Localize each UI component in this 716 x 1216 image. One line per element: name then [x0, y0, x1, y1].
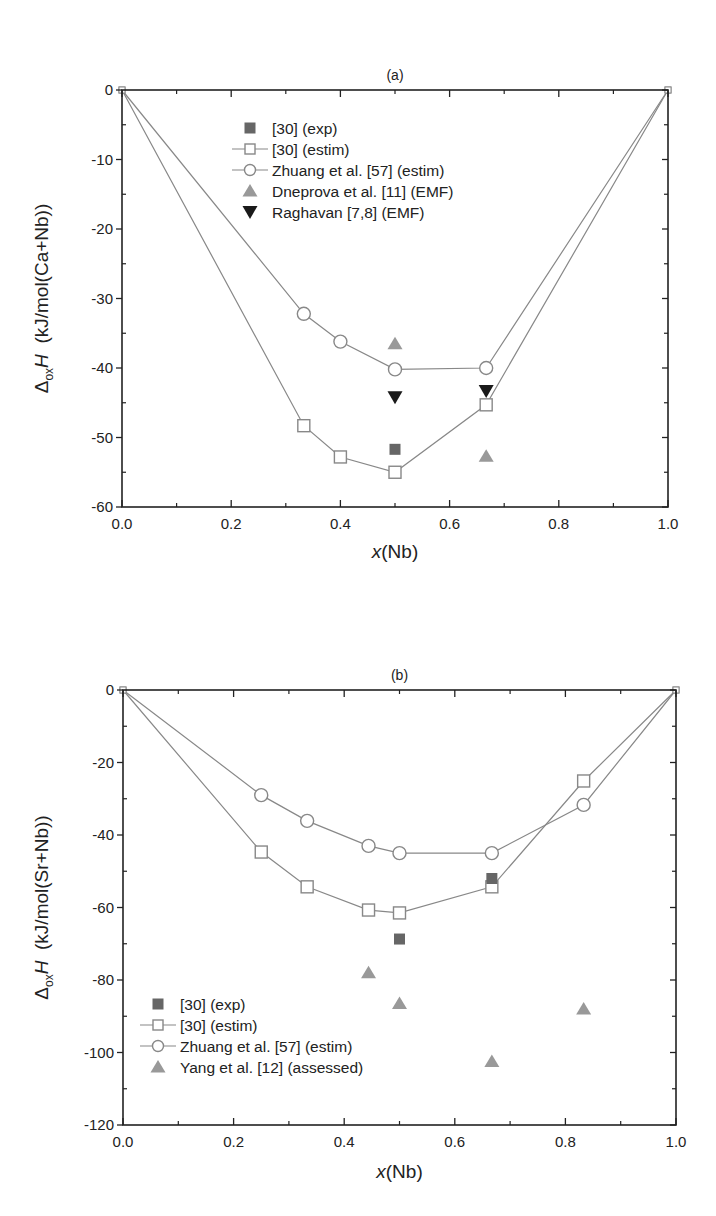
data-point: [394, 907, 406, 919]
series-line: [123, 690, 676, 913]
legend-label: Dneprova et al. [11] (EMF): [272, 183, 453, 200]
legend-label: Zhuang et al. [57] (estim): [180, 1038, 352, 1055]
legend-label: [30] (estim): [272, 141, 350, 158]
data-point: [298, 420, 310, 432]
y-tick-label: -40: [91, 359, 113, 376]
data-point: [301, 881, 313, 893]
x-tick-label: 0.8: [555, 1133, 576, 1150]
x-tick-label: 0.8: [548, 515, 569, 532]
x-tick-label: 0.2: [221, 515, 242, 532]
y-tick-label: -60: [91, 498, 113, 515]
y-tick-label: -80: [92, 971, 114, 988]
y-tick-label: 0: [105, 81, 113, 98]
legend-label: [30] (exp): [180, 996, 245, 1013]
legend-label: [30] (exp): [272, 120, 337, 137]
legend-label: Raghavan [7,8] (EMF): [272, 204, 424, 221]
data-point: [480, 362, 493, 375]
y-axis-title: ΔoxH (kJ/mol(Sr+Nb)): [31, 815, 56, 999]
panel-title: (b): [391, 667, 408, 683]
data-point: [334, 335, 347, 348]
legend-marker-icon: [243, 184, 258, 197]
legend-label: Zhuang et al. [57] (estim): [272, 162, 444, 179]
legend-marker-icon: [245, 144, 255, 154]
data-point: [485, 847, 498, 860]
data-point: [393, 847, 406, 860]
data-point: [486, 873, 497, 884]
legend-marker-icon: [151, 1060, 166, 1073]
legend-label: [30] (estim): [180, 1017, 258, 1034]
series-line: [122, 90, 668, 369]
x-tick-label: 0.0: [112, 515, 133, 532]
data-point: [394, 934, 405, 945]
data-point: [390, 444, 401, 455]
y-tick-label: -60: [92, 899, 114, 916]
legend-label: Yang et al. [12] (assessed): [180, 1059, 363, 1076]
data-point: [363, 904, 375, 916]
chart-panel-a: (a)0.00.20.40.60.81.00-10-20-30-40-50-60…: [31, 67, 678, 562]
y-tick-label: 0: [106, 681, 114, 698]
data-point: [362, 839, 375, 852]
data-point: [255, 789, 268, 802]
legend-marker-icon: [245, 165, 256, 176]
y-axis-title: ΔoxH (kJ/mol(Ca+Nb)): [31, 204, 56, 394]
x-tick-label: 0.6: [439, 515, 460, 532]
y-tick-label: -20: [91, 220, 113, 237]
legend-marker-icon: [153, 999, 164, 1010]
data-point: [255, 846, 267, 858]
chart-panel-b: (b)0.00.20.40.60.81.00-20-40-60-80-100-1…: [31, 667, 686, 1182]
data-point: [361, 966, 376, 979]
figure: (a)0.00.20.40.60.81.00-10-20-30-40-50-60…: [0, 0, 716, 1216]
legend: [30] (exp)[30] (estim)Zhuang et al. [57]…: [232, 120, 453, 221]
y-tick-label: -40: [92, 826, 114, 843]
y-tick-label: -30: [91, 290, 113, 307]
data-point: [578, 775, 590, 787]
legend-marker-icon: [153, 1020, 163, 1030]
data-point: [334, 451, 346, 463]
legend-marker-icon: [243, 206, 258, 219]
data-point: [577, 798, 590, 811]
x-axis-title: x(Nb): [375, 1161, 422, 1182]
data-point: [388, 391, 403, 404]
x-tick-label: 0.2: [223, 1133, 244, 1150]
x-tick-label: 0.4: [334, 1133, 355, 1150]
legend-marker-icon: [153, 1041, 164, 1052]
x-tick-label: 0.4: [330, 515, 351, 532]
data-point: [484, 1055, 499, 1068]
y-tick-label: -10: [91, 151, 113, 168]
y-tick-label: -20: [92, 754, 114, 771]
y-tick-label: -120: [84, 1116, 114, 1133]
data-point: [392, 997, 407, 1010]
data-point: [480, 399, 492, 411]
series-line: [122, 90, 668, 472]
panel-title: (a): [386, 67, 403, 83]
y-tick-label: -100: [84, 1044, 114, 1061]
x-tick-label: 0.0: [113, 1133, 134, 1150]
data-point: [297, 307, 310, 320]
x-tick-label: 1.0: [666, 1133, 687, 1150]
x-tick-label: 0.6: [444, 1133, 465, 1150]
data-point: [389, 466, 401, 478]
x-axis-title: x(Nb): [371, 541, 418, 562]
data-point: [479, 449, 494, 462]
x-tick-label: 1.0: [658, 515, 679, 532]
data-point: [576, 1002, 591, 1015]
legend-marker-icon: [245, 123, 256, 134]
y-tick-label: -50: [91, 429, 113, 446]
legend: [30] (exp)[30] (estim)Zhuang et al. [57]…: [140, 996, 363, 1076]
data-point: [388, 337, 403, 350]
data-point: [301, 814, 314, 827]
data-point: [389, 363, 402, 376]
